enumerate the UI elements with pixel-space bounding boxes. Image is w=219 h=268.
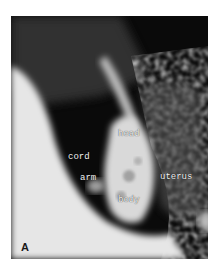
- label-cord: cord: [68, 153, 90, 162]
- label-arm: arm: [80, 174, 96, 183]
- label-body: body: [118, 196, 140, 205]
- label-uterus: uterus: [160, 173, 192, 182]
- label-head: head: [118, 130, 140, 139]
- ultrasound-scan: [11, 16, 208, 259]
- ultrasound-image: head cord arm uterus body A: [11, 16, 208, 259]
- panel-letter: A: [21, 241, 29, 253]
